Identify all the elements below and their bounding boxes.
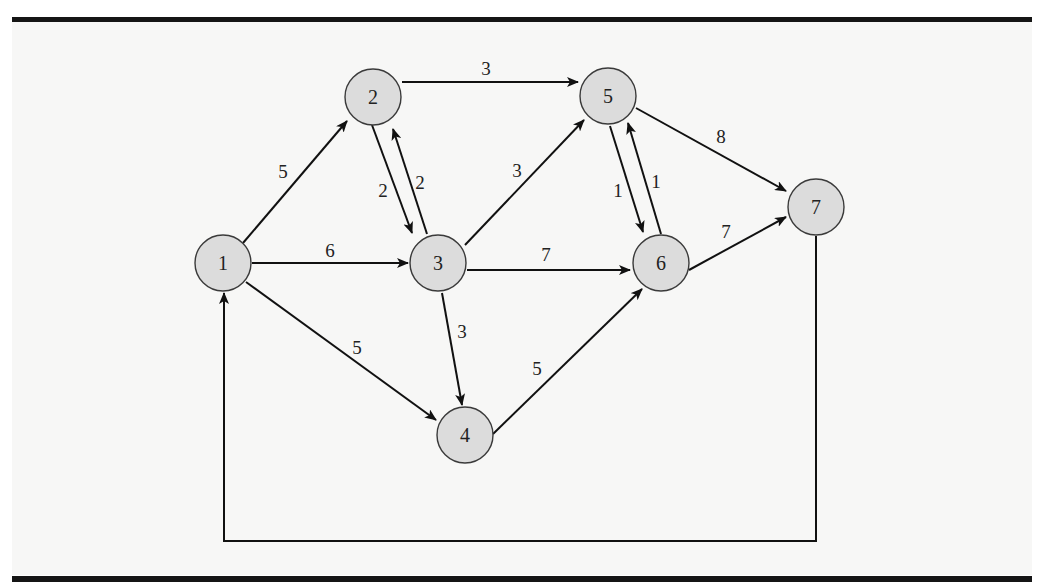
edge-weight-3-4: 3 (457, 321, 467, 342)
node-4: 4 (437, 407, 493, 463)
edge-3-4 (442, 293, 462, 405)
edge-weight-3-2: 2 (415, 172, 425, 193)
node-3: 3 (410, 235, 466, 291)
edge-weight-1-3: 6 (325, 240, 335, 261)
svg-text:3: 3 (433, 252, 443, 274)
svg-text:7: 7 (811, 196, 821, 218)
svg-text:6: 6 (656, 252, 666, 274)
edge-weight-5-6: 1 (613, 180, 623, 201)
edge-1-2 (243, 121, 347, 243)
node-6: 6 (633, 235, 689, 291)
node-5: 5 (580, 68, 636, 124)
edge-7-1-return (224, 236, 816, 541)
svg-text:2: 2 (368, 86, 378, 108)
edge-weight-6-7: 7 (721, 221, 731, 242)
edge-weight-6-5: 1 (651, 171, 661, 192)
node-1: 1 (195, 235, 251, 291)
edge-weight-3-6: 7 (541, 244, 551, 265)
node-2: 2 (345, 69, 401, 125)
svg-text:1: 1 (218, 252, 228, 274)
edge-6-7 (689, 217, 786, 270)
edge-1-4 (246, 282, 436, 420)
edge-weight-2-3: 2 (378, 180, 388, 201)
node-7: 7 (788, 179, 844, 235)
network-diagram: 5 6 5 2 2 3 3 7 3 5 1 1 8 (0, 0, 1050, 583)
svg-text:4: 4 (460, 424, 470, 446)
edge-weight-1-4: 5 (352, 337, 362, 358)
svg-text:5: 5 (603, 85, 613, 107)
edge-weight-3-5: 3 (512, 160, 522, 181)
edge-weight-2-5: 3 (481, 58, 491, 79)
edge-weight-1-2: 5 (278, 161, 288, 182)
edge-weight-4-6: 5 (532, 358, 542, 379)
edge-3-5 (465, 120, 584, 245)
edge-weight-5-7: 8 (716, 126, 726, 147)
edge-4-6 (493, 289, 642, 434)
